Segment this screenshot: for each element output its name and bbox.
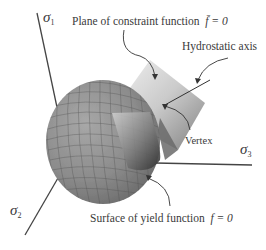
sigma1-axis [37,13,58,112]
sigma2-axis [25,178,58,235]
sigma2-label: σ2 [10,203,21,220]
vertex-label: Vertex [185,136,212,147]
hydrostatic-callout-arrow [198,58,228,80]
surface-callout-arrow [148,178,170,206]
surface-label: Surface of yield function f = 0 [90,213,233,225]
sigma3-label: σ3 [240,142,251,159]
hydrostatic-label: Hydrostatic axis [182,41,257,53]
plane-label: Plane of constraint function f̄ = 0 [72,16,228,28]
yield-surface-diagram: σ1 σ2 σ3 Plane of constraint function f̄… [0,0,266,250]
sigma1-label: σ1 [43,10,54,27]
sigma3-axis [155,163,252,165]
